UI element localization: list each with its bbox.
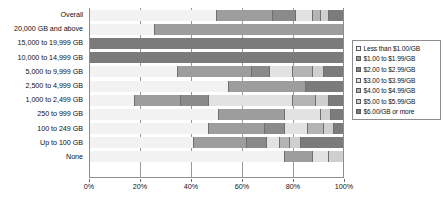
x-axis-tick-label: 0% [84,182,94,191]
stacked-bar [89,109,344,120]
x-axis-tick-label: 80% [286,182,300,191]
bar-segment [293,95,316,106]
bar-row [89,79,344,93]
bar-segment [329,151,344,162]
bar-segment [313,66,323,77]
x-axis-tick-label: 100% [335,182,353,191]
legend-label: $1.00 to $1.99/GB [364,55,416,62]
y-axis-label: None [0,150,86,164]
bar-segment [194,137,248,148]
legend-item[interactable]: $5.00 to $5.99/GB [356,96,437,107]
y-axis-label: 20,000 GB and above [0,22,86,36]
bar-segment [285,109,321,120]
stacked-bar [89,38,344,49]
bar-row [89,22,344,36]
bar-row [89,36,344,50]
bar-segment [324,66,344,77]
bar-segment [296,10,314,21]
legend-item[interactable]: $2.00 to $2.99/GB [356,64,437,75]
y-axis-label: 15,000 to 19,999 GB [0,36,86,50]
legend-label: $3.00 to $3.99/GB [364,77,416,84]
legend-item[interactable]: Less than $1.00/GB [356,43,437,54]
y-axis-label: 250 to 999 GB [0,107,86,121]
y-axis-category-labels: Overall20,000 GB and above15,000 to 19,9… [0,8,86,164]
bar-segment [334,123,344,134]
bar-segment [247,137,267,148]
y-axis-label: Overall [0,8,86,22]
bar-row [89,136,344,150]
bar-segment [293,66,313,77]
bar-segment [321,10,329,21]
stacked-bar [89,95,344,106]
bar-segment [280,137,290,148]
legend-item[interactable]: $6.00/GB or more [356,107,437,118]
bar-row [89,65,344,79]
bar-segment [89,81,229,92]
legend-label: $2.00 to $2.99/GB [364,66,416,73]
bar-rows [89,8,344,178]
stacked-bar [89,66,344,77]
x-axis-tick-label: 60% [235,182,249,191]
bar-segment [316,95,329,106]
plot-area [89,8,344,178]
bar-segment [313,151,328,162]
bar-segment [219,109,285,120]
legend-swatch-icon [356,99,361,104]
stacked-bar [89,81,344,92]
bar-segment [209,95,293,106]
bar-segment [89,137,194,148]
bar-segment [252,66,270,77]
legend-item[interactable]: $3.00 to $3.99/GB [356,75,437,86]
stacked-bar-chart: Overall20,000 GB and above15,000 to 19,9… [0,0,443,205]
legend-swatch-icon [356,56,361,61]
bar-segment [273,10,296,21]
bar-segment [89,151,285,162]
legend-label: $4.00 to $4.99/GB [364,87,416,94]
bar-segment [89,52,344,63]
bar-segment [290,137,300,148]
x-axis-tick-label: 20% [133,182,147,191]
y-axis-label: Up to 100 GB [0,136,86,150]
bar-segment [181,95,209,106]
legend-swatch-icon [356,109,361,114]
bar-segment [89,95,135,106]
bar-segment [217,10,273,21]
legend-label: Less than $1.00/GB [364,45,421,52]
bar-segment [209,123,265,134]
bar-segment [313,10,321,21]
stacked-bar [89,10,344,21]
bar-segment [329,10,344,21]
bar-segment [229,81,306,92]
bar-segment [89,123,209,134]
legend-item[interactable]: $4.00 to $4.99/GB [356,85,437,96]
bar-segment [308,123,323,134]
y-axis-label: 10,000 to 14,999 GB [0,51,86,65]
stacked-bar [89,151,344,162]
bar-segment [89,38,344,49]
legend-swatch-icon [356,46,361,51]
y-axis-label: 5,000 to 9,999 GB [0,65,86,79]
bar-segment [155,24,344,35]
legend-swatch-icon [356,88,361,93]
stacked-bar [89,52,344,63]
bar-segment [321,109,331,120]
bar-segment [89,109,219,120]
bar-segment [135,95,181,106]
bar-segment [270,66,293,77]
stacked-bar [89,24,344,35]
stacked-bar [89,137,344,148]
bar-segment [178,66,252,77]
bar-segment [301,137,344,148]
bar-row [89,122,344,136]
legend-swatch-icon [356,78,361,83]
x-axis: 0%20%40%60%80%100% [89,179,344,189]
bar-segment [306,81,344,92]
legend-item[interactable]: $1.00 to $1.99/GB [356,54,437,65]
y-axis-label: 1,000 to 2,499 GB [0,93,86,107]
bar-segment [285,123,308,134]
bar-row [89,93,344,107]
bar-segment [331,109,344,120]
y-axis-label: 2,500 to 4,999 GB [0,79,86,93]
bar-row [89,107,344,121]
x-axis-tick-label: 40% [184,182,198,191]
